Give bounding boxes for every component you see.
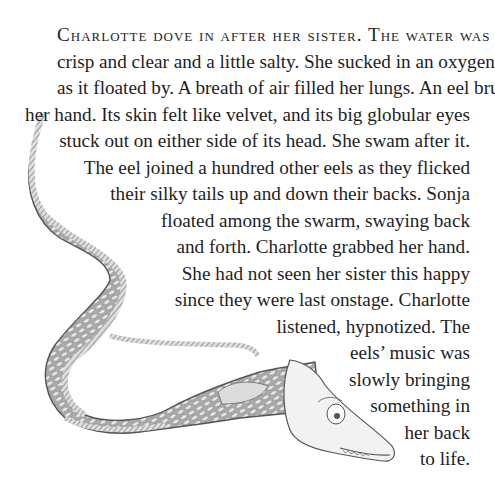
opening-line: Charlotte dove in after her sister. The …: [57, 24, 470, 46]
text-line: as it floated by. A breath of air filled…: [57, 77, 470, 99]
text-line: She had not seen her sister this happy: [182, 263, 470, 285]
text-line: something in: [370, 395, 470, 417]
text-line: crisp and clear and a little salty. She …: [57, 51, 470, 73]
text-line: stuck out on either side of its head. Sh…: [59, 130, 470, 152]
opening-smallcaps: Charlotte dove in after her sister. The …: [57, 24, 490, 45]
text-line: and forth. Charlotte grabbed her hand.: [176, 236, 470, 258]
story-text: Charlotte dove in after her sister. The …: [0, 0, 495, 489]
text-line: floated among the swarm, swaying back: [161, 210, 470, 232]
text-line: her back: [404, 422, 470, 444]
text-line: The eel joined a hundred other eels as t…: [84, 157, 470, 179]
text-line: their silky tails up and down their back…: [110, 183, 470, 205]
text-line: since they were last onstage. Charlotte: [175, 289, 470, 311]
text-line: her hand. Its skin felt like velvet, and…: [25, 104, 470, 126]
text-line: eels’ music was: [350, 342, 470, 364]
text-line: to life.: [420, 448, 470, 470]
book-page: Charlotte dove in after her sister. The …: [0, 0, 495, 489]
text-line: listened, hypnotized. The: [276, 316, 470, 338]
text-line: slowly bringing: [349, 369, 470, 391]
